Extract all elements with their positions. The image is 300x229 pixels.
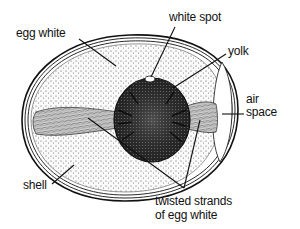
yolk	[114, 78, 190, 162]
label-shell: shell	[23, 179, 47, 192]
label-twisted-strands-1: twisted strands	[155, 195, 232, 208]
white-spot	[145, 76, 155, 82]
label-yolk: yolk	[228, 45, 249, 58]
label-white-spot: white spot	[169, 11, 221, 24]
label-egg-white: egg white	[16, 27, 66, 40]
label-air-space-2: space	[246, 106, 277, 119]
label-twisted-strands-2: of egg white	[155, 209, 217, 222]
